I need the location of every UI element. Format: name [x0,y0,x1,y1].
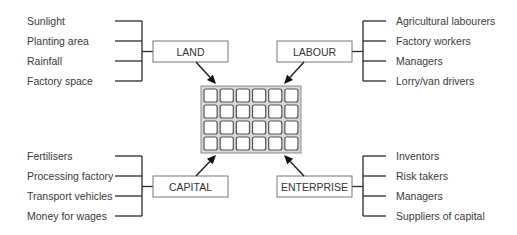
land-item: Rainfall [27,55,62,67]
factors-of-production-diagram: Sunlight Planting area Rainfall Factory … [0,0,517,235]
enterprise-items: Inventors Risk takers Managers Suppliers… [396,150,485,222]
capital-item: Transport vehicles [27,190,112,202]
labour-items: Agricultural labourers Factory workers M… [396,15,495,87]
grid-cell [253,89,266,102]
arrow-shaft [196,162,210,176]
grid-cell [269,137,282,150]
capital-item: Money for wages [27,210,107,222]
capital-item: Processing factory [27,170,114,182]
grid-cell [253,105,266,118]
production-unit-grid [201,86,301,153]
grid-cell [269,89,282,102]
grid-cell [220,137,233,150]
factor-land: Sunlight Planting area Rainfall Factory … [27,15,228,87]
labour-item: Agricultural labourers [396,15,495,27]
grid-cell [285,137,298,150]
factor-capital: Fertilisers Processing factory Transport… [27,150,228,222]
grid-cell [204,137,217,150]
labour-item: Lorry/van drivers [396,75,474,87]
grid-cell [204,105,217,118]
enterprise-arrow-icon [284,155,304,176]
land-item: Planting area [27,35,89,47]
land-items: Sunlight Planting area Rainfall Factory … [27,15,93,87]
arrow-shaft [290,162,304,176]
labour-item: Factory workers [396,35,471,47]
grid-cell [269,121,282,134]
arrow-shaft [196,62,210,77]
grid-cell [253,121,266,134]
factor-enterprise: Inventors Risk takers Managers Suppliers… [277,150,485,222]
capital-item: Fertilisers [27,150,73,162]
grid-cell [269,105,282,118]
grid-cell [236,89,249,102]
grid-cell [285,105,298,118]
capital-label: CAPITAL [169,181,212,193]
grid-cell [253,137,266,150]
arrow-shaft [290,62,304,77]
grid-cell [236,121,249,134]
enterprise-label: ENTERPRISE [281,181,348,193]
grid-cell [285,89,298,102]
land-bracket [115,21,153,81]
factor-labour: Agricultural labourers Factory workers M… [277,15,495,87]
land-arrow-icon [196,62,216,84]
grid-cell [236,137,249,150]
land-item: Sunlight [27,15,65,27]
labour-arrow-icon [284,62,304,84]
capital-items: Fertilisers Processing factory Transport… [27,150,114,222]
grid-cell [236,105,249,118]
grid-cell [220,89,233,102]
enterprise-item: Risk takers [396,170,448,182]
grid-cell [204,89,217,102]
land-item: Factory space [27,75,93,87]
capital-arrow-icon [196,155,216,176]
diagram-canvas: Sunlight Planting area Rainfall Factory … [0,0,517,235]
enterprise-item: Managers [396,190,443,202]
enterprise-bracket [352,156,386,216]
grid-cell [204,121,217,134]
grid-cell [285,121,298,134]
labour-item: Managers [396,55,443,67]
grid-cell [220,121,233,134]
labour-bracket [352,21,386,81]
land-label: LAND [176,46,204,58]
grid-cell [220,105,233,118]
capital-bracket [115,156,153,216]
enterprise-item: Suppliers of capital [396,210,485,222]
labour-label: LABOUR [293,46,337,58]
enterprise-item: Inventors [396,150,439,162]
